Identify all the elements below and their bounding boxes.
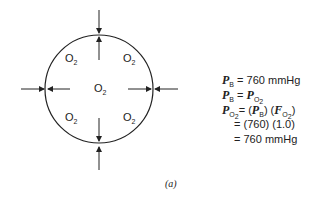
o2-label-lower-right: O2 <box>123 111 135 125</box>
alveolus-diagram <box>0 0 315 199</box>
o2-label-center: O2 <box>94 82 106 96</box>
equation-line-4: = (760) (1.0) <box>234 118 295 130</box>
o2-label-upper-left: O2 <box>65 52 77 66</box>
o2-label-upper-right: O2 <box>123 52 135 66</box>
o2-label-lower-left: O2 <box>65 111 77 125</box>
equation-line-5: = 760 mmHg <box>234 133 297 145</box>
figure-caption: (a) <box>165 178 177 189</box>
equation-line-1: PB = 760 mmHg <box>222 73 300 88</box>
